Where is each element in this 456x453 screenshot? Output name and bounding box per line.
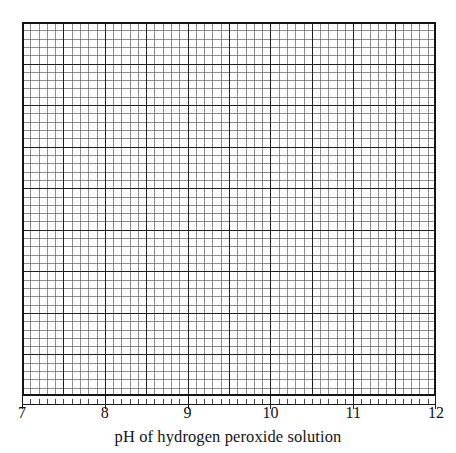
x-tick-label-9: 9 xyxy=(166,404,210,422)
x-tick-label-8: 8 xyxy=(83,404,127,422)
grid-lines xyxy=(22,22,436,396)
x-axis-title: pH of hydrogen peroxide solution xyxy=(0,427,456,447)
x-tick-label-10: 10 xyxy=(248,404,292,422)
x-tick-label-11: 11 xyxy=(331,404,375,422)
x-axis-line xyxy=(0,396,456,410)
x-tick-label-12: 12 xyxy=(414,404,456,422)
x-tick-label-7: 7 xyxy=(0,404,44,422)
graph-paper-figure: 7 8 9 10 11 12 pH of hydrogen peroxide s… xyxy=(0,0,456,453)
plot-area xyxy=(22,22,436,396)
